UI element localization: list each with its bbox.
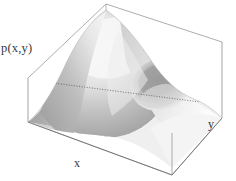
surface-plot-figure: p(x,y) x y bbox=[0, 0, 236, 181]
x-axis-label: x bbox=[74, 157, 80, 169]
surface-plot-canvas bbox=[0, 0, 236, 181]
y-axis-label: y bbox=[208, 118, 214, 130]
density-surface bbox=[0, 0, 236, 181]
z-axis-label: p(x,y) bbox=[1, 42, 32, 55]
